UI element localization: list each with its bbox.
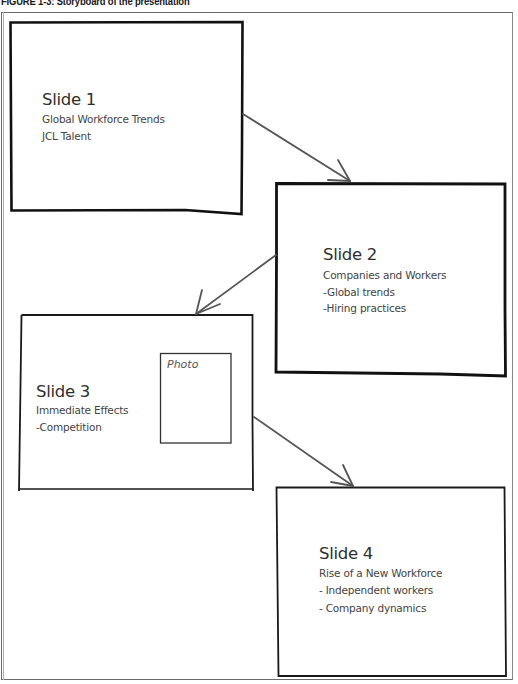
slide-1-title: Slide 1 (42, 90, 165, 110)
slide-1-line: Global Workforce Trends (42, 111, 165, 128)
slide-2-line: -Global trends (323, 284, 446, 301)
figure-caption: FIGURE 1-3: Storyboard of the presentati… (1, 0, 190, 7)
slide-4-content: Slide 4 Rise of a New Workforce - Indepe… (319, 544, 442, 617)
slide-3-title: Slide 3 (36, 382, 128, 402)
slide-3-line: Immediate Effects (36, 402, 128, 419)
slide-2-line: -Hiring practices (323, 300, 446, 317)
figure-frame-inner-line (3, 12, 4, 680)
slide-1-line: JCL Talent (42, 128, 165, 145)
photo-placeholder-label: Photo (167, 358, 198, 371)
slide-2-title: Slide 2 (323, 245, 446, 265)
slide-3-line: -Competition (36, 419, 128, 436)
slide-2-line: Companies and Workers (323, 267, 446, 284)
slide-4-line: - Independent workers (319, 582, 442, 599)
slide-2-content: Slide 2 Companies and Workers -Global tr… (323, 245, 446, 317)
slide-3-content: Slide 3 Immediate Effects -Competition (36, 382, 128, 435)
slide-1-content: Slide 1 Global Workforce Trends JCL Tale… (42, 90, 165, 144)
slide-4-title: Slide 4 (319, 544, 442, 564)
slide-4-line: - Company dynamics (319, 600, 442, 617)
slide-4-line: Rise of a New Workforce (319, 565, 442, 582)
